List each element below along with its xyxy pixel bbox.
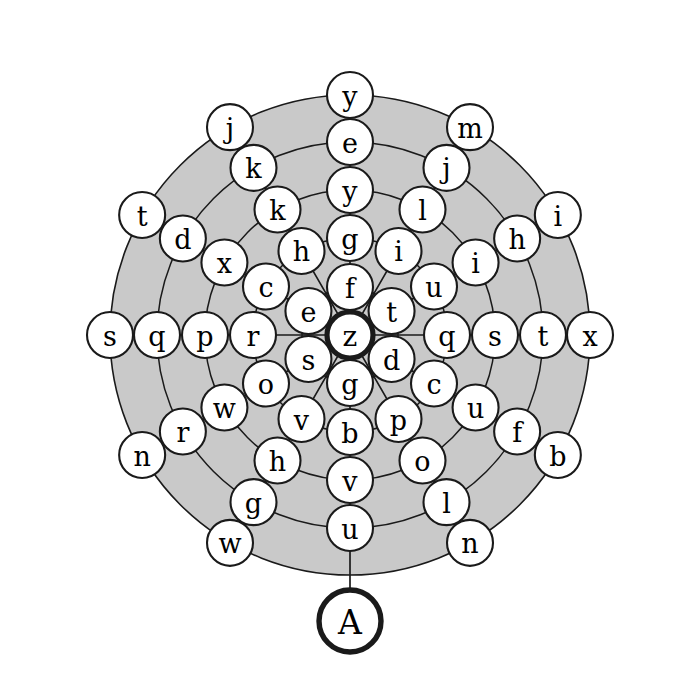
node-l[interactable]: l	[424, 479, 470, 525]
node-e[interactable]: e	[327, 119, 373, 165]
node-label: k	[269, 195, 286, 226]
node-label: g	[341, 369, 358, 400]
node-u[interactable]: u	[327, 505, 373, 551]
node-m[interactable]: m	[447, 104, 493, 150]
node-b[interactable]: b	[327, 409, 373, 455]
node-k[interactable]: k	[231, 145, 277, 191]
node-s[interactable]: s	[87, 312, 133, 358]
node-k[interactable]: k	[255, 186, 301, 232]
node-label: t	[386, 297, 397, 328]
node-n[interactable]: n	[119, 432, 165, 478]
node-label: b	[549, 441, 566, 472]
node-o[interactable]: o	[243, 361, 289, 407]
node-h[interactable]: h	[279, 228, 325, 274]
node-i[interactable]: i	[376, 228, 422, 274]
node-v[interactable]: v	[279, 396, 325, 442]
node-label: y	[341, 81, 358, 112]
node-e[interactable]: e	[285, 288, 331, 334]
node-d[interactable]: d	[160, 216, 206, 262]
node-s[interactable]: s	[285, 336, 331, 382]
node-b[interactable]: b	[535, 432, 581, 478]
node-label: p	[390, 405, 407, 436]
node-label: r	[247, 321, 260, 352]
node-g[interactable]: g	[327, 360, 373, 406]
node-label: x	[582, 321, 597, 352]
node-o[interactable]: o	[400, 438, 446, 484]
node-label: e	[300, 297, 316, 328]
node-label: z	[343, 320, 358, 353]
radial-graph-canvas: Aymixbnwnstjejhtflugrqdkylisuovhwpxkgiuq…	[0, 0, 700, 679]
node-v[interactable]: v	[327, 457, 373, 503]
node-l[interactable]: l	[400, 186, 446, 232]
node-u[interactable]: u	[453, 385, 499, 431]
node-label: s	[103, 321, 117, 352]
node-label: m	[457, 113, 483, 144]
node-x[interactable]: x	[567, 312, 613, 358]
node-t[interactable]: t	[520, 312, 566, 358]
node-root-z[interactable]: z	[327, 312, 373, 358]
node-label: h	[293, 236, 310, 267]
node-label: u	[425, 272, 442, 303]
node-w[interactable]: w	[201, 385, 247, 431]
node-c[interactable]: c	[411, 361, 457, 407]
node-label: l	[418, 195, 427, 226]
node-g[interactable]: g	[231, 479, 277, 525]
node-label: q	[148, 321, 165, 352]
node-u[interactable]: u	[411, 264, 457, 310]
node-label: p	[196, 321, 213, 352]
node-f[interactable]: f	[494, 409, 540, 455]
node-label: t	[137, 201, 148, 232]
node-n[interactable]: n	[447, 520, 493, 566]
node-label: u	[341, 514, 358, 545]
node-t[interactable]: t	[119, 192, 165, 238]
node-p[interactable]: p	[376, 396, 422, 442]
node-label: h	[269, 446, 286, 477]
node-s[interactable]: s	[472, 312, 518, 358]
node-label: i	[471, 248, 480, 279]
node-d[interactable]: d	[369, 336, 415, 382]
node-p[interactable]: p	[182, 312, 228, 358]
node-label: w	[213, 393, 236, 424]
node-g[interactable]: g	[327, 215, 373, 261]
node-label: k	[245, 153, 262, 184]
node-r[interactable]: r	[230, 312, 276, 358]
node-label: b	[341, 418, 358, 449]
node-i[interactable]: i	[453, 240, 499, 286]
node-label: c	[426, 369, 441, 400]
node-label: A	[337, 603, 363, 642]
node-label: s	[488, 321, 502, 352]
node-label: v	[341, 466, 358, 497]
node-y[interactable]: y	[327, 72, 373, 118]
node-q[interactable]: q	[424, 312, 470, 358]
node-x[interactable]: x	[201, 240, 247, 286]
node-label: n	[133, 441, 150, 472]
node-c[interactable]: c	[243, 264, 289, 310]
node-t[interactable]: t	[369, 288, 415, 334]
node-r[interactable]: r	[160, 409, 206, 455]
node-label: w	[218, 528, 241, 559]
node-w[interactable]: w	[207, 520, 253, 566]
node-label: g	[245, 488, 262, 519]
node-label: i	[394, 236, 403, 267]
node-i[interactable]: i	[535, 192, 581, 238]
node-goal-A[interactable]: A	[319, 590, 381, 652]
node-label: e	[342, 128, 358, 159]
node-h[interactable]: h	[255, 438, 301, 484]
node-label: i	[554, 201, 563, 232]
node-label: g	[341, 224, 358, 255]
node-j[interactable]: j	[207, 104, 253, 150]
node-label: y	[341, 176, 358, 207]
node-label: r	[176, 417, 189, 448]
node-label: s	[302, 345, 316, 376]
node-j[interactable]: j	[424, 145, 470, 191]
node-label: d	[174, 224, 191, 255]
node-label: x	[217, 248, 232, 279]
node-label: d	[383, 345, 400, 376]
node-label: c	[258, 272, 273, 303]
node-label: v	[293, 405, 310, 436]
node-f[interactable]: f	[327, 264, 373, 310]
node-q[interactable]: q	[134, 312, 180, 358]
node-label: o	[414, 446, 430, 477]
node-h[interactable]: h	[494, 216, 540, 262]
node-y[interactable]: y	[327, 167, 373, 213]
